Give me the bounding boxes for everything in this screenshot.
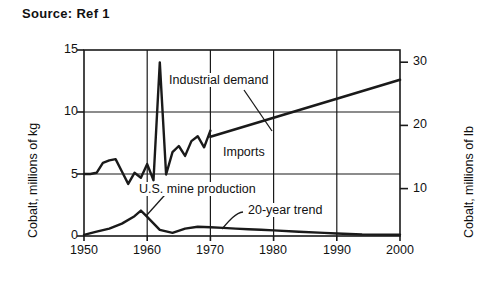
annotation-20-year-trend: 20-year trend: [247, 203, 323, 217]
series-industrial-demand: [210, 80, 400, 137]
plot-area: [0, 0, 480, 282]
annotation-us-mine-production: U.S. mine production: [138, 182, 257, 196]
y-axis-ticks-left: [77, 50, 84, 236]
annotation-imports: Imports: [222, 145, 266, 159]
annotation-industrial-demand: Industrial demand: [168, 73, 269, 87]
grid-horizontal: [84, 112, 400, 174]
y-axis-ticks-right: [400, 62, 408, 188]
series-us-mine-production: [84, 211, 400, 235]
leader-line-20-year-trend: [222, 212, 243, 229]
figure-container: Source: Ref 1 Cobalt, millions of kg Cob…: [0, 0, 480, 282]
